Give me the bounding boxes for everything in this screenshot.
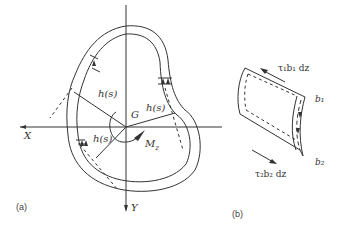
element-hidden-edge-1 xyxy=(245,74,248,110)
element-outer-edge xyxy=(238,68,245,114)
element-hidden-edge-2 xyxy=(248,74,297,96)
section-inner-wall xyxy=(77,34,190,182)
bottom-flow-label: τ₂b₂ dz xyxy=(255,170,286,179)
centroid-label: G xyxy=(131,110,139,120)
moment-label: Mz xyxy=(145,139,159,152)
lever-arm-label-1: h(s) xyxy=(98,89,117,99)
lever-arm-label-3: h(s) xyxy=(93,134,112,144)
thickness-bottom-label: b₂ xyxy=(315,158,324,167)
top-flow-arrow-icon xyxy=(260,68,268,74)
y-axis-arrow-icon xyxy=(124,205,128,212)
panel-a-caption: (a) xyxy=(16,203,27,212)
shear-flow-marks-right xyxy=(158,78,172,84)
y-axis-label: Y xyxy=(131,203,138,213)
element-right-face-outer xyxy=(300,97,305,156)
shear-flow-marks-left xyxy=(76,140,88,146)
diagram-canvas xyxy=(0,0,342,231)
shear-flow-marks-top xyxy=(90,55,100,72)
tangent-line-3 xyxy=(80,145,118,190)
tangent-line-2 xyxy=(165,88,183,150)
panel-b-caption: (b) xyxy=(232,210,243,219)
thickness-top-label: b₁ xyxy=(315,95,324,104)
moment-label-main: M xyxy=(145,138,155,149)
element-bottom-edge xyxy=(240,114,300,150)
top-flow-label: τ₁b₁ dz xyxy=(278,64,309,73)
lever-arm-label-2: h(s) xyxy=(146,103,165,113)
x-axis-label: X xyxy=(24,131,31,141)
moment-label-subscript: z xyxy=(155,144,159,152)
figure: X Y G h(s) h(s) h(s) Mz (a) τ₁b₁ dz τ₂b₂… xyxy=(0,0,342,231)
x-axis-arrow-icon xyxy=(20,125,26,129)
element-right-face-inner xyxy=(292,96,297,150)
element-hidden-edge-3 xyxy=(246,110,296,140)
